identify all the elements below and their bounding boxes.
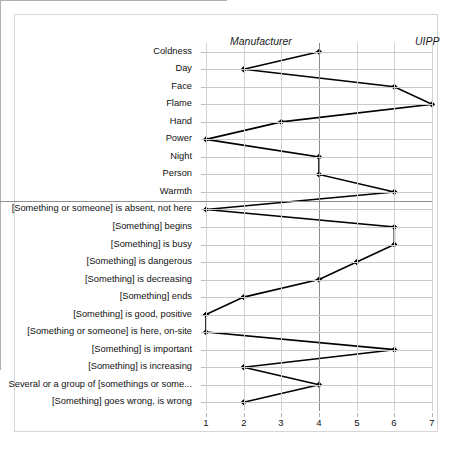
gridline-horizontal	[206, 385, 432, 386]
gridline-horizontal	[206, 262, 432, 263]
y-axis-tick	[201, 350, 206, 351]
category-label: [Something] ends	[120, 292, 192, 301]
y-axis-tick	[201, 402, 206, 403]
category-label: Several or a group of [somethings or som…	[9, 380, 192, 389]
x-axis-tick-label: 5	[354, 417, 359, 428]
gridline-horizontal	[206, 209, 432, 210]
gridline-horizontal	[206, 350, 432, 351]
y-axis-tick	[201, 69, 206, 70]
y-axis-tick	[201, 332, 206, 333]
gridline-horizontal	[206, 227, 432, 228]
category-label: Flame	[166, 100, 192, 109]
x-axis-tick-label: 6	[391, 417, 396, 428]
y-axis-tick	[201, 174, 206, 175]
category-label: [Something or someone] is absent, not he…	[12, 205, 192, 214]
group-separator-line-left	[0, 201, 206, 202]
y-axis-tick	[201, 297, 206, 298]
y-axis-tick	[201, 52, 206, 53]
gridline-horizontal	[206, 245, 432, 246]
gridline-horizontal	[206, 297, 432, 298]
category-label: [Something or someone] is here, on-site	[27, 327, 192, 336]
y-axis-tick	[201, 157, 206, 158]
category-label: Night	[170, 152, 192, 161]
y-axis-tick	[201, 104, 206, 105]
category-label: Warmth	[160, 187, 192, 196]
y-axis-tick	[201, 262, 206, 263]
category-label: [Something] is busy	[111, 240, 192, 249]
y-axis-tick	[201, 367, 206, 368]
y-axis-tick	[201, 245, 206, 246]
y-axis-tick	[201, 87, 206, 88]
y-axis-tick	[201, 315, 206, 316]
y-axis-tick	[201, 227, 206, 228]
gridline-horizontal	[206, 69, 432, 70]
category-label: Coldness	[153, 47, 192, 56]
category-label: Hand	[170, 117, 192, 126]
gridline-horizontal	[206, 87, 432, 88]
category-label: Person	[163, 170, 192, 179]
plot-area	[206, 43, 432, 411]
y-axis-tick	[201, 192, 206, 193]
category-axis-labels: ColdnessDayFaceFlameHandPowerNightPerson…	[0, 43, 200, 411]
x-axis-tick-label: 3	[278, 417, 283, 428]
category-label: [Something] begins	[112, 222, 192, 231]
x-axis-tick-label: 7	[429, 417, 434, 428]
category-label: [Something] goes wrong, is wrong	[52, 398, 192, 407]
x-axis-line	[0, 0, 227, 1]
gridline-horizontal	[206, 402, 432, 403]
gridline-horizontal	[206, 52, 432, 53]
x-axis-tick-label: 4	[316, 417, 321, 428]
category-label: [Something] is decreasing	[85, 275, 192, 284]
gridline-vertical	[432, 43, 433, 411]
gridline-horizontal	[206, 104, 432, 105]
category-label: [Something] is dangerous	[87, 257, 192, 266]
y-axis-tick	[201, 139, 206, 140]
gridline-horizontal	[206, 122, 432, 123]
gridline-horizontal	[206, 192, 432, 193]
gridline-horizontal	[206, 139, 432, 140]
gridline-horizontal	[206, 157, 432, 158]
category-label: Face	[171, 82, 192, 91]
category-label: Power	[166, 135, 192, 144]
group-separator-line	[206, 201, 432, 202]
category-label: [Something] is good, positive	[73, 310, 192, 319]
gridline-horizontal	[206, 174, 432, 175]
category-label: [Something] is increasing	[88, 363, 192, 372]
y-axis-tick	[201, 385, 206, 386]
x-axis-tick-label: 2	[241, 417, 246, 428]
y-axis-tick	[201, 280, 206, 281]
y-axis-tick	[201, 122, 206, 123]
y-axis-tick	[201, 209, 206, 210]
gridline-horizontal	[206, 315, 432, 316]
category-label: Day	[175, 65, 192, 74]
gridline-horizontal	[206, 332, 432, 333]
gridline-horizontal	[206, 367, 432, 368]
gridline-horizontal	[206, 280, 432, 281]
x-axis-tick-label: 1	[203, 417, 208, 428]
category-label: [Something] is important	[92, 345, 192, 354]
